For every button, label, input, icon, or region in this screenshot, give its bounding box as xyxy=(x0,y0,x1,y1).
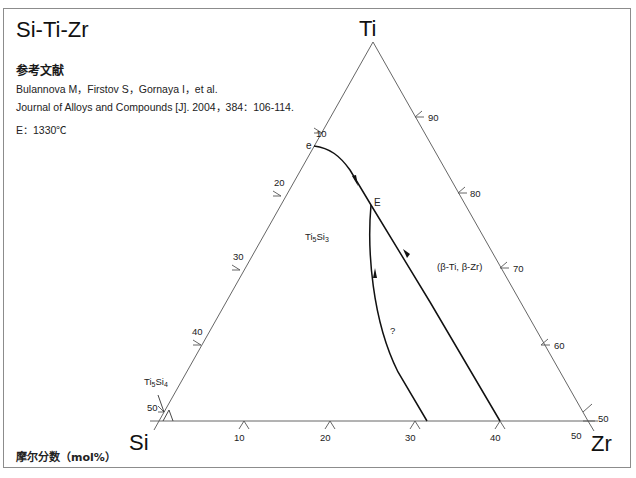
arrow-up-left-icon xyxy=(403,249,410,258)
left-tick-30: 30 xyxy=(233,251,244,262)
curve-arrows xyxy=(352,175,410,278)
right-tick-70: 70 xyxy=(513,263,524,274)
bottom-tick-10: 10 xyxy=(234,432,245,443)
bottom-tick-40: 40 xyxy=(490,432,501,443)
bottom-tick-30: 30 xyxy=(405,432,416,443)
edge-zr-extension xyxy=(588,421,594,431)
unknown-region-label: ? xyxy=(390,325,395,336)
ti5si4-label: Ti5Si4 xyxy=(144,376,168,388)
ti5si3-label: Ti5Si3 xyxy=(305,231,329,243)
left-tick-40: 40 xyxy=(192,326,203,337)
curve-E-to-base xyxy=(370,205,427,421)
edge-ti-zr xyxy=(373,42,588,421)
left-tick-50: 50 xyxy=(147,402,158,413)
point-E-label: E xyxy=(374,197,381,208)
beta-phase-label: (β-Ti, β-Zr) xyxy=(437,261,482,272)
right-tick-90: 90 xyxy=(428,112,439,123)
triangle-edges xyxy=(150,42,598,431)
point-e-label: e xyxy=(306,140,312,151)
right-tick-60: 60 xyxy=(554,340,565,351)
right-tick-80: 80 xyxy=(470,188,481,199)
arrow-up-icon xyxy=(373,268,377,278)
bottom-tick-20: 20 xyxy=(320,432,331,443)
corner-zr-label: Zr xyxy=(591,431,612,456)
corner-ti-label: Ti xyxy=(359,16,377,41)
left-tick-10: 10 xyxy=(316,128,327,139)
bottom-tick-50: 50 xyxy=(571,430,582,441)
ternary-diagram: 10 20 30 40 50 90 80 70 60 50 10 20 30 4… xyxy=(0,0,636,478)
edge-ti-si xyxy=(159,42,373,421)
left-tick-20: 20 xyxy=(274,177,285,188)
left-edge-ticks xyxy=(158,128,322,412)
bottom-edge-ticks xyxy=(239,421,505,429)
right-tick-50: 50 xyxy=(598,413,609,424)
edge-si-extension xyxy=(154,421,159,430)
corner-si-label: Si xyxy=(129,430,149,455)
